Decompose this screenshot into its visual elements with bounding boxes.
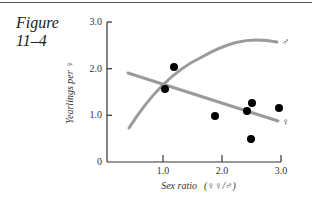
y-tick-0: 0 [97,156,102,167]
data-point [161,85,169,93]
x-tick-3: 3.0 [275,165,288,176]
y-tick-3: 3.0 [90,16,103,27]
chart: 3.0 2.0 1.0 0 Yearlings per ♀ 1.0 2.0 3.… [0,0,312,201]
y-tick-1: 1.0 [90,109,103,120]
y-axis-title: Yearlings per ♀ [64,60,75,123]
data-point [243,107,251,115]
data-point [275,104,283,112]
data-point [248,99,256,107]
x-tick-2: 2.0 [216,165,229,176]
x-axis-units: (♀♀/♂) [204,180,237,192]
male-symbol-label: ♂ [282,36,290,47]
data-point [211,112,219,120]
x-axis: 1.0 2.0 3.0 Sex ratio (♀♀/♂) [107,155,287,192]
data-point [247,135,255,143]
female-symbol-label: ♀ [282,116,290,127]
x-tick-1: 1.0 [157,165,170,176]
y-axis: 3.0 2.0 1.0 0 Yearlings per ♀ [64,16,112,167]
data-point [170,63,178,71]
y-tick-2: 2.0 [90,63,103,74]
x-axis-title: Sex ratio [161,180,197,191]
